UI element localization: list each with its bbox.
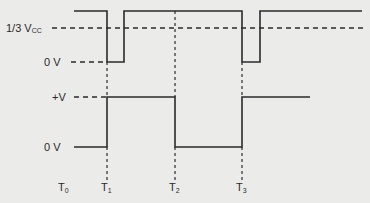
zero-v-bottom-label: 0 V (44, 141, 61, 153)
t1-label: T1 (101, 181, 112, 194)
timing-diagram: 1/3 VCC 0 V +V 0 V T0 T1 T2 T3 (0, 0, 370, 203)
plus-v-label: +V (52, 91, 66, 103)
trigger-waveform (74, 11, 362, 62)
zero-v-top-label: 0 V (44, 56, 61, 68)
t2-label: T2 (169, 181, 180, 194)
vcc-third-label: 1/3 VCC (6, 22, 42, 34)
t3-label: T3 (236, 181, 247, 194)
output-waveform (74, 97, 310, 147)
t0-label: T0 (58, 181, 69, 194)
